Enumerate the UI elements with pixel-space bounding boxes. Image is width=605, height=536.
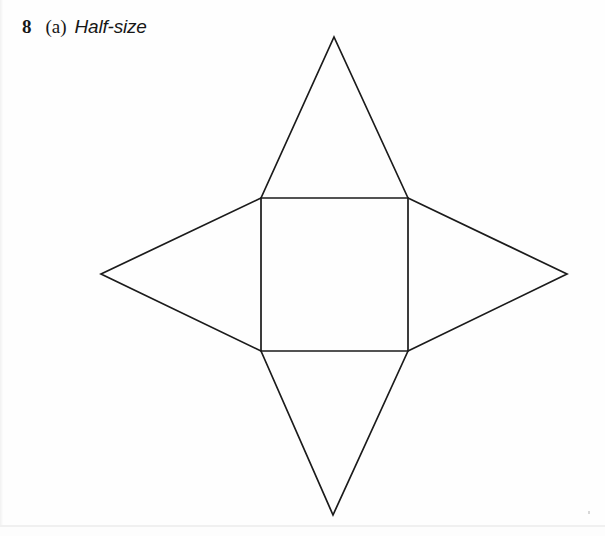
net-diagram — [101, 37, 567, 515]
figure-page: 8(a)Half-size — [0, 0, 605, 536]
net-square — [261, 198, 408, 351]
net-left-triangle — [101, 198, 261, 351]
net-bottom-triangle — [261, 351, 408, 515]
net-right-triangle — [408, 198, 567, 351]
square-pyramid-net-figure — [0, 0, 605, 536]
scan-speck — [588, 511, 590, 514]
net-top-triangle — [261, 37, 408, 198]
